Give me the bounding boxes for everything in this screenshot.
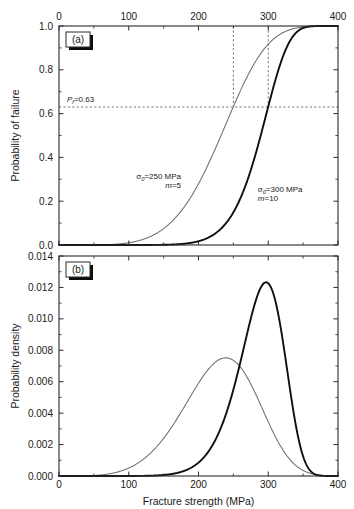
panel-b-ytick-7: 0.014 bbox=[28, 251, 53, 262]
panel-b-xtick-3: 300 bbox=[260, 479, 277, 490]
panel-a-ytick-1: 0.2 bbox=[39, 196, 53, 207]
figure-background bbox=[0, 0, 354, 509]
panel-a-curve1-m-label: m=5 bbox=[165, 181, 181, 190]
panel-b-ytick-2: 0.004 bbox=[28, 408, 53, 419]
panel-b-xtick-2: 200 bbox=[190, 479, 207, 490]
panel-a-xtick-4: 400 bbox=[330, 11, 347, 22]
panel-a-xtick-2: 200 bbox=[190, 11, 207, 22]
panel-a-xtick-1: 100 bbox=[120, 11, 137, 22]
panel-b-xtick-1: 100 bbox=[120, 479, 137, 490]
panel-b-xtick-4: 400 bbox=[330, 479, 347, 490]
panel-a-ytick-0: 0.0 bbox=[39, 240, 53, 251]
panel-b-y-axis-label: Probability density bbox=[9, 323, 21, 409]
panel-a-letter: (a) bbox=[72, 34, 84, 45]
panel-a-ytick-2: 0.4 bbox=[39, 152, 53, 163]
panel-b-xtick-0: 0 bbox=[56, 479, 62, 490]
panel-b-ytick-5: 0.010 bbox=[28, 313, 53, 324]
panel-a-ytick-3: 0.6 bbox=[39, 108, 53, 119]
panel-a-curve2-m-label: m=10 bbox=[258, 194, 279, 203]
panel-b-ytick-6: 0.012 bbox=[28, 282, 53, 293]
x-axis-label: Fracture strength (MPa) bbox=[143, 495, 254, 507]
panel-a-y-axis-label: Probability of failure bbox=[9, 89, 21, 181]
panel-a-pf-annotation: Pf=0.63 bbox=[67, 95, 95, 105]
panel-a-ytick-4: 0.8 bbox=[39, 64, 53, 75]
panel-b-ytick-4: 0.008 bbox=[28, 345, 53, 356]
panel-b-ytick-0: 0.000 bbox=[28, 471, 53, 482]
panel-b-ytick-3: 0.006 bbox=[28, 376, 53, 387]
panel-b-letter: (b) bbox=[72, 264, 84, 275]
figure-container: 0100200300400 0.00.20.40.60.81.0 Probabi… bbox=[0, 0, 354, 509]
panel-a-ytick-5: 1.0 bbox=[39, 21, 53, 32]
weibull-figure-svg: 0100200300400 0.00.20.40.60.81.0 Probabi… bbox=[0, 0, 354, 509]
panel-a-xtick-3: 300 bbox=[260, 11, 277, 22]
panel-a-xtick-0: 0 bbox=[56, 11, 62, 22]
panel-b-ytick-1: 0.002 bbox=[28, 439, 53, 450]
